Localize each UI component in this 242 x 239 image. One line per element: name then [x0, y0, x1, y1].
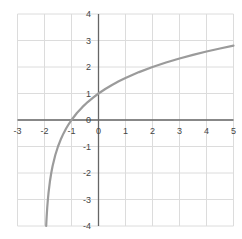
y-tick-label: 1: [86, 89, 91, 99]
y-tick-label: 0: [86, 115, 91, 125]
y-tick-label: 2: [86, 62, 91, 72]
x-tick-label: -2: [40, 126, 48, 136]
function-curve: [46, 46, 233, 226]
x-tick-label: -1: [67, 126, 75, 136]
y-tick-label: 3: [86, 36, 91, 46]
x-tick-label: 5: [231, 126, 236, 136]
plot-area: -3-2-101234543210-1-2-3-4: [0, 0, 242, 239]
x-tick-label: -3: [13, 126, 21, 136]
x-tick-label: 3: [177, 126, 182, 136]
x-tick-label: 2: [150, 126, 155, 136]
y-tick-label: -2: [83, 168, 91, 178]
y-tick-label: -1: [83, 142, 91, 152]
chart-container: -3-2-101234543210-1-2-3-4: [0, 0, 242, 239]
x-tick-label: 4: [204, 126, 209, 136]
x-tick-label: 1: [123, 126, 128, 136]
y-tick-label: 4: [86, 9, 91, 19]
x-tick-label: 0: [96, 126, 101, 136]
y-tick-label: -3: [83, 195, 91, 205]
y-tick-label: -4: [83, 221, 91, 231]
